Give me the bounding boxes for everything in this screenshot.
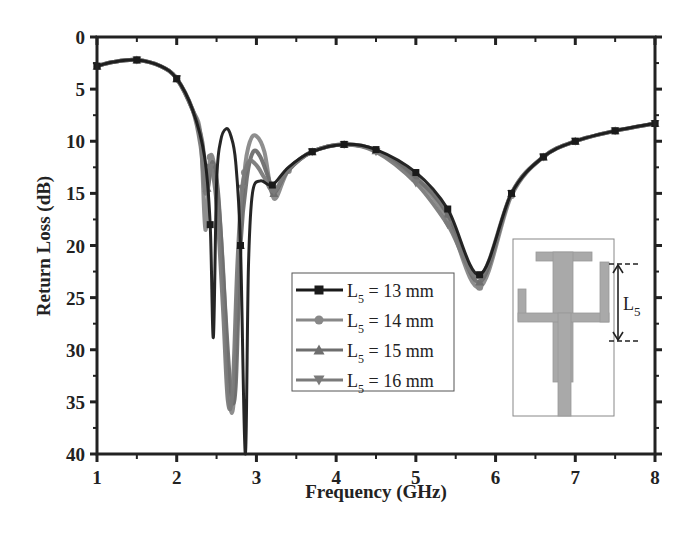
y-tick-label: 40 (66, 444, 85, 465)
x-tick-label: 8 (650, 467, 660, 488)
y-tick-label: 0 (76, 27, 86, 48)
y-tick-label: 25 (66, 288, 85, 309)
y-tick-label: 15 (66, 183, 85, 204)
y-tick-label: 30 (66, 340, 85, 361)
x-tick-label: 3 (252, 467, 262, 488)
x-tick-label: 2 (172, 467, 182, 488)
legend: L5 = 13 mmL5 = 14 mmL5 = 15 mmL5 = 16 mm (292, 273, 454, 396)
y-tick-label: 35 (66, 392, 85, 413)
x-tick-label: 7 (571, 467, 581, 488)
y-tick-label: 10 (66, 131, 85, 152)
x-tick-label: 1 (92, 467, 102, 488)
y-axis-title: Return Loss (dB) (33, 176, 55, 316)
y-tick-label: 20 (66, 236, 85, 257)
antenna-inset: L5 (513, 239, 641, 416)
return-loss-chart: 0510152025303540 12345678 Frequency (GHz… (0, 0, 696, 540)
x-tick-label: 6 (491, 467, 501, 488)
y-tick-label: 5 (76, 79, 86, 100)
dimension-label: L5 (623, 294, 641, 319)
x-axis-title: Frequency (GHz) (305, 481, 447, 503)
